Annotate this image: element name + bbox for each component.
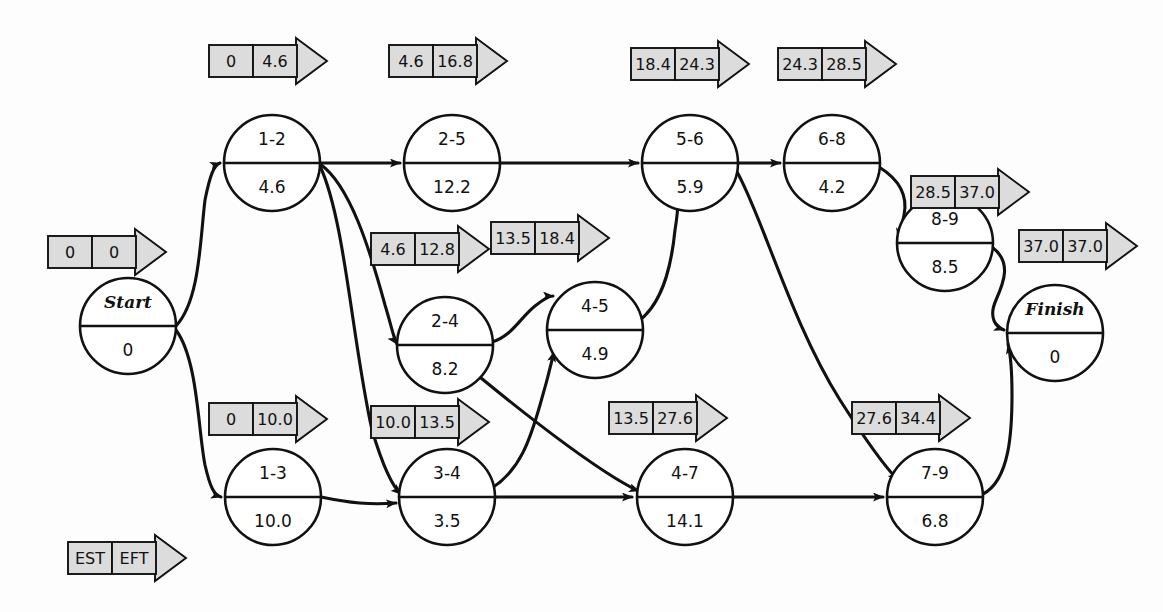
node-activity-label: 6-8 (818, 129, 846, 149)
node-n8-9[interactable]: 8-98.5 (897, 195, 993, 291)
tag-arrow-tip (296, 396, 327, 442)
node-duration-label: 0 (123, 340, 134, 360)
network-canvas: Start01-24.62-512.25-65.96-84.28-98.52-4… (0, 0, 1163, 612)
edge-1-3-to-3-4 (321, 497, 396, 504)
tag-eft-value: 37.0 (1067, 237, 1103, 256)
node-duration-label: 6.8 (921, 511, 948, 531)
node-duration-label: 4.2 (818, 177, 845, 197)
tag-arrow-tip (718, 41, 749, 87)
tag-eft-value: 0 (109, 243, 119, 262)
edge-3-4-to-4-5 (492, 352, 554, 488)
est-eft-tag-tag-1-3: 010.0 (209, 396, 327, 442)
tag-est-value: 27.6 (856, 409, 892, 428)
tag-est-value: 0 (65, 243, 75, 262)
node-n1-2[interactable]: 1-24.6 (224, 115, 320, 211)
edge-4-5-to-5-6 (640, 198, 678, 320)
tag-eft-value: 4.6 (262, 52, 287, 71)
node-duration-label: 5.9 (676, 177, 703, 197)
node-n2-4[interactable]: 2-48.2 (397, 297, 493, 393)
edge-7-9-to-finish (983, 344, 1012, 494)
node-n3-4[interactable]: 3-43.5 (399, 449, 495, 545)
tag-arrow-tip (939, 395, 970, 441)
tag-eft-value: 34.4 (900, 409, 936, 428)
node-activity-label: 5-6 (676, 129, 704, 149)
tag-arrow-tip (458, 226, 489, 272)
tag-est-value: 4.6 (398, 52, 423, 71)
tag-arrow-tip (135, 229, 166, 275)
node-duration-label: 14.1 (666, 511, 704, 531)
node-n2-5[interactable]: 2-512.2 (404, 115, 500, 211)
tag-eft-value: 10.0 (257, 410, 293, 429)
est-eft-tag-tag-7-9: 27.634.4 (852, 395, 970, 441)
project-network-diagram: Start01-24.62-512.25-65.96-84.28-98.52-4… (0, 0, 1163, 612)
tag-est-value: 18.4 (635, 55, 671, 74)
tag-arrow-tip (578, 215, 609, 261)
est-eft-tag-tag-5-6: 18.424.3 (631, 41, 749, 87)
tag-arrow-tip (998, 169, 1029, 215)
node-duration-label: 4.9 (581, 344, 608, 364)
tag-arrow-tip (696, 395, 727, 441)
node-activity-label: 2-5 (438, 129, 466, 149)
node-activity-label: 4-7 (671, 463, 699, 483)
node-finish[interactable]: Finish0 (1007, 285, 1103, 381)
node-duration-label: 10.0 (254, 511, 292, 531)
node-n4-5[interactable]: 4-54.9 (547, 282, 643, 378)
node-duration-label: 0 (1050, 347, 1061, 367)
est-eft-tag-tag-4-5: 13.518.4 (491, 215, 609, 261)
tag-arrow-tip (476, 38, 507, 84)
node-activity-label: 1-3 (259, 463, 287, 483)
est-eft-tag-tag-2-4: 4.612.8 (371, 226, 489, 272)
node-n4-7[interactable]: 4-714.1 (637, 449, 733, 545)
node-start[interactable]: Start0 (80, 278, 176, 374)
tag-eft-value: 24.3 (679, 55, 715, 74)
edge-2-4-to-4-5 (492, 296, 553, 342)
tag-eft-value: 13.5 (419, 413, 455, 432)
est-eft-tag-tag-3-4: 10.013.5 (371, 399, 489, 445)
tag-arrow-tip (296, 38, 327, 84)
est-eft-tag-tag-1-2: 04.6 (209, 38, 327, 84)
tag-arrow-tip (865, 41, 896, 87)
est-eft-tag-tag-8-9: 28.537.0 (911, 169, 1029, 215)
est-eft-tag-tag-start: 00 (48, 229, 166, 275)
node-activity-label: 4-5 (581, 296, 609, 316)
tag-arrow-tip (1106, 223, 1137, 269)
node-duration-label: 3.5 (433, 511, 460, 531)
tag-eft-value: 18.4 (539, 229, 575, 248)
est-eft-tag-tag-finish: 37.037.0 (1019, 223, 1137, 269)
node-n1-3[interactable]: 1-310.0 (225, 449, 321, 545)
tag-arrow-tip (155, 535, 186, 581)
node-n5-6[interactable]: 5-65.9 (642, 115, 738, 211)
est-eft-tag-tag-6-8: 24.328.5 (778, 41, 896, 87)
est-eft-tag-tag-4-7: 13.527.6 (609, 395, 727, 441)
tag-est-value: 24.3 (782, 55, 818, 74)
node-n6-8[interactable]: 6-84.2 (784, 115, 880, 211)
tag-eft-value: EFT (120, 549, 149, 568)
tag-est-value: 10.0 (375, 413, 411, 432)
tag-est-value: 28.5 (915, 183, 951, 202)
tag-est-value: EST (75, 549, 105, 568)
node-activity-label: 8-9 (931, 209, 959, 229)
tag-est-value: 0 (226, 52, 236, 71)
est-eft-tag-tag-legend: ESTEFT (68, 535, 186, 581)
node-activity-label: Start (104, 292, 152, 312)
tag-arrow-tip (458, 399, 489, 445)
node-n7-9[interactable]: 7-96.8 (887, 449, 983, 545)
tag-est-value: 0 (226, 410, 236, 429)
est-eft-tag-tag-2-5: 4.616.8 (389, 38, 507, 84)
tag-est-value: 4.6 (380, 240, 405, 259)
tag-est-value: 13.5 (495, 229, 531, 248)
node-activity-label: 7-9 (921, 463, 949, 483)
tag-eft-value: 16.8 (437, 52, 473, 71)
node-activity-label: 1-2 (258, 129, 286, 149)
node-duration-label: 4.6 (258, 177, 285, 197)
tag-eft-value: 12.8 (419, 240, 455, 259)
tag-est-value: 13.5 (613, 409, 649, 428)
edge-1-2-to-3-4 (320, 166, 401, 494)
tag-eft-value: 37.0 (959, 183, 995, 202)
node-duration-label: 12.2 (433, 177, 471, 197)
tag-eft-value: 27.6 (657, 409, 693, 428)
node-activity-label: 2-4 (431, 311, 459, 331)
edge-start-to-1-2 (176, 163, 220, 326)
tag-est-value: 37.0 (1023, 237, 1059, 256)
node-duration-label: 8.5 (931, 257, 958, 277)
